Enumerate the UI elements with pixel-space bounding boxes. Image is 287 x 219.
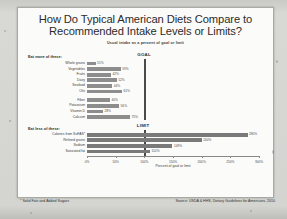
bar-value-label: 200% <box>203 138 211 143</box>
bar-row-label: Potassium <box>25 103 85 108</box>
x-axis-tick-label: 0% <box>85 160 90 164</box>
scan-artifact <box>250 210 252 212</box>
bar-value-label: 56% <box>121 104 127 109</box>
bar-track: 15% <box>87 61 259 66</box>
bar-row: Saturated fat110% <box>26 149 265 154</box>
bar-row: Oils61% <box>26 89 265 94</box>
bar <box>87 84 112 88</box>
x-axis-tick-label: 50% <box>112 160 118 164</box>
bar-value-label: 28% <box>105 109 111 114</box>
bar-row: Calcium75% <box>26 115 265 120</box>
bar-track: 61% <box>87 89 259 94</box>
bar <box>87 150 150 154</box>
chart-plot-area: Eat more of these: Eat less of these: GO… <box>26 48 265 179</box>
title-line-1: How Do Typical American Diets Compare to <box>24 13 267 25</box>
bar-value-label: 44% <box>114 84 120 89</box>
bar <box>87 144 172 148</box>
scan-artifact <box>9 120 11 122</box>
bar-row-label: Refined grains <box>25 138 85 143</box>
bar-track: 42% <box>87 72 259 77</box>
bar-row-label: Dairy <box>25 78 85 83</box>
x-axis-tick-label: 100% <box>140 160 148 164</box>
bar-row: Sodium149% <box>26 143 265 148</box>
bar-row: Whole grains15% <box>26 61 265 66</box>
bar-track: 44% <box>87 83 259 88</box>
bar-row-label: Saturated fat <box>25 149 85 154</box>
bar-row: Calories from SoFAS*280% <box>26 132 265 137</box>
x-axis-tick <box>202 156 203 158</box>
x-axis-tick <box>230 156 231 158</box>
bar <box>87 67 121 71</box>
scan-artifact <box>30 212 32 214</box>
goal-label: GOAL <box>137 52 150 57</box>
bar <box>87 78 117 82</box>
chart-subtitle: Usual intake as a percent of goal or lim… <box>24 41 267 45</box>
bar-value-label: 110% <box>152 149 160 154</box>
bar <box>87 110 103 114</box>
bar-value-label: 52% <box>118 78 124 83</box>
x-axis-tick <box>173 156 174 158</box>
bar <box>87 115 130 119</box>
limit-label: LIMIT <box>137 123 149 128</box>
bar-track: 28% <box>87 109 259 114</box>
x-axis-tick <box>87 156 88 158</box>
bar-track: 280% <box>87 132 259 137</box>
bar <box>87 98 110 102</box>
bar-row-label: Oils <box>25 89 85 94</box>
scan-artifact <box>276 60 278 63</box>
bar-row-label: Whole grains <box>25 61 85 66</box>
group-heading-eat-less: Eat less of these: <box>28 126 60 131</box>
bar <box>87 73 111 77</box>
footnote-source: Source: USDA & HHS, Dietary Guidelines f… <box>176 199 275 203</box>
bar-row: Refined grains200% <box>26 138 265 143</box>
bar-row: Fruits42% <box>26 72 265 77</box>
group-heading-eat-more: Eat more of these: <box>28 54 62 59</box>
footnote-sofas: * Solid Fats and Added Sugars <box>20 199 69 203</box>
chart-card: How Do Typical American Diets Compare to… <box>17 7 274 198</box>
bar-value-label: 15% <box>97 61 103 66</box>
bar-row-label: Vegetables <box>25 67 85 72</box>
bar <box>87 133 248 137</box>
bar-track: 52% <box>87 78 259 83</box>
bar-value-label: 61% <box>123 89 129 94</box>
bar-row-label: Seafood <box>25 83 85 88</box>
bar-track: 149% <box>87 143 259 148</box>
bar-row: Seafood44% <box>26 83 265 88</box>
bar-row-label: Vitamin D <box>25 109 85 114</box>
scan-artifact <box>272 150 274 154</box>
bar-track: 75% <box>87 115 259 120</box>
bar <box>87 138 202 142</box>
bar-row: Vitamin D28% <box>26 109 265 114</box>
scanned-page: How Do Typical American Diets Compare to… <box>0 0 287 219</box>
bar-track: 110% <box>87 149 259 154</box>
page-title: How Do Typical American Diets Compare to… <box>24 13 267 38</box>
bar-track: 56% <box>87 103 259 108</box>
x-axis-tick-label: 300% <box>255 160 263 164</box>
bar-row: Fiber40% <box>26 98 265 103</box>
bar-value-label: 280% <box>249 132 257 137</box>
bar-row: Vegetables59% <box>26 67 265 72</box>
x-axis-tick-label: 200% <box>198 160 206 164</box>
bar-row-label: Fruits <box>25 72 85 77</box>
bar <box>87 62 96 66</box>
x-axis-tick <box>144 156 145 158</box>
bar-value-label: 59% <box>122 67 128 72</box>
bar-track: 59% <box>87 67 259 72</box>
bar-track: 200% <box>87 138 259 143</box>
bar-row-label: Sodium <box>25 143 85 148</box>
bar-value-label: 149% <box>174 144 182 149</box>
x-axis-tick <box>116 156 117 158</box>
bar-value-label: 75% <box>132 115 138 120</box>
x-axis-tick <box>259 156 260 158</box>
bar-track: 40% <box>87 98 259 103</box>
x-axis-tick-label: 150% <box>169 160 177 164</box>
x-axis-title: Percent of goal or limit <box>87 164 259 168</box>
bar <box>87 90 122 94</box>
bar-value-label: 42% <box>113 72 119 77</box>
bar-row-label: Calcium <box>25 115 85 120</box>
bar-row: Potassium56% <box>26 103 265 108</box>
bar <box>87 104 119 108</box>
bar-value-label: 40% <box>111 98 117 103</box>
scan-artifact <box>4 30 6 32</box>
bar-row-label: Fiber <box>25 98 85 103</box>
